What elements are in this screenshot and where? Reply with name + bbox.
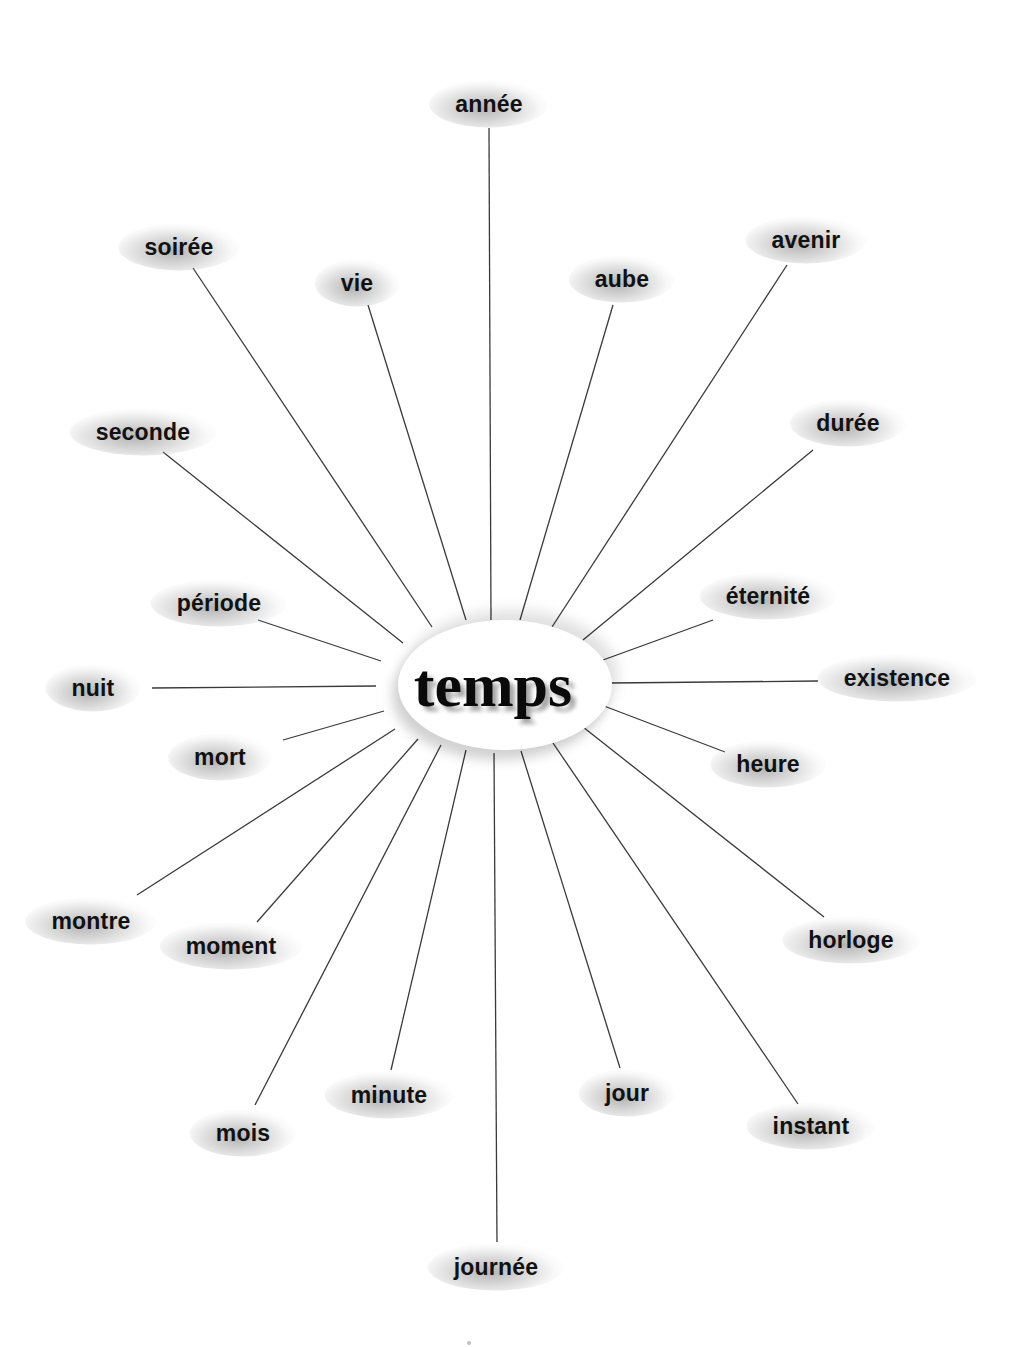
connector-line-mois [255,745,441,1105]
connector-line-eternite [603,620,713,660]
word-node-montre: montre [25,898,156,945]
word-node-annee: année [429,81,548,128]
word-node-seconde: seconde [70,409,217,456]
connector-line-soiree [193,268,432,627]
word-node-eternite: éternité [700,573,837,620]
word-node-avenir: avenir [746,217,867,264]
word-node-horloge: horloge [782,917,920,964]
word-node-instant: instant [747,1103,876,1150]
connector-line-aube [520,305,613,620]
connector-line-minute [391,750,466,1070]
connector-line-annee [489,128,491,620]
connector-line-vie [368,305,466,620]
word-node-heure: heure [710,741,826,788]
word-node-periode: période [151,580,287,627]
word-node-jour: jour [579,1070,675,1117]
connector-line-mort [283,711,384,740]
connector-line-journee [494,753,497,1242]
word-node-duree: durée [790,400,906,447]
word-web-diagram: temps annéesoiréevieaubeavenirsecondedur… [0,0,1017,1347]
word-node-mois: mois [190,1110,296,1157]
center-word: temps [414,650,572,721]
connector-line-instant [553,743,798,1104]
page-dot [467,1341,471,1345]
connector-line-heure [604,706,725,752]
connector-line-periode [258,620,381,661]
word-node-moment: moment [160,923,303,970]
word-node-nuit: nuit [46,665,141,712]
connector-line-existence [611,681,818,683]
word-node-vie: vie [315,260,400,307]
word-node-minute: minute [325,1072,454,1119]
word-node-existence: existence [818,655,977,702]
word-node-aube: aube [569,256,675,303]
connector-line-nuit [152,686,376,688]
word-node-journee: journée [428,1244,564,1291]
word-node-mort: mort [168,734,272,781]
word-node-soiree: soirée [119,224,240,271]
connector-line-jour [521,751,620,1068]
